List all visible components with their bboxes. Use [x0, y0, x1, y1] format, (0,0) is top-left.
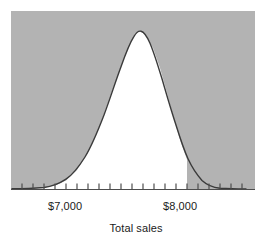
- x-axis-tick-label-lower: $7,000: [48, 200, 82, 212]
- x-axis-title: Total sales: [0, 222, 272, 234]
- normal-distribution-chart: [0, 0, 272, 244]
- chart-figure: $7,000 $8,000 Total sales: [0, 0, 272, 244]
- x-axis-ticks: [22, 184, 242, 190]
- x-axis-tick-label-upper: $8,000: [163, 200, 197, 212]
